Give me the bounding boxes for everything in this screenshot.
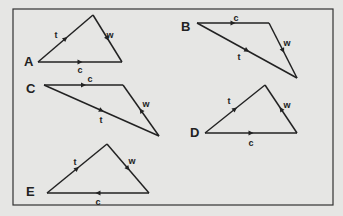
side-label-t: t: [100, 115, 103, 125]
side-label-w: w: [141, 99, 150, 109]
triangle-label: B: [181, 19, 190, 34]
arrowhead-icon: [78, 60, 83, 65]
triangle-label: E: [26, 184, 35, 199]
triangle-label: D: [190, 125, 199, 140]
arrowhead-icon: [96, 191, 101, 196]
triangle-label: C: [26, 81, 36, 96]
triangle-c: cwtC: [26, 74, 159, 136]
triangle-a: twcA: [24, 15, 122, 75]
triangle-d: twcD: [190, 85, 297, 148]
side-label-w: w: [282, 100, 291, 110]
side-label-t: t: [55, 30, 58, 40]
triangle-label: A: [24, 54, 34, 69]
side-label-c: c: [77, 65, 82, 75]
triangle-e: twcE: [26, 144, 149, 207]
side-label-t: t: [74, 157, 77, 167]
side-label-c: c: [95, 197, 100, 207]
side-label-w: w: [105, 30, 114, 40]
triangle-b: cwtB: [181, 13, 297, 78]
side-label-w: w: [127, 156, 136, 166]
side-label-t: t: [238, 52, 241, 62]
arrowhead-icon: [81, 83, 86, 88]
side-label-t: t: [228, 96, 231, 106]
side-label-c: c: [87, 74, 92, 84]
vector-triangle-diagram: twcA cwtB cwtC twcD twcE: [0, 0, 343, 216]
arrowhead-icon: [249, 131, 254, 136]
side-label-c: c: [233, 13, 238, 23]
side-label-w: w: [282, 38, 291, 48]
side-label-c: c: [248, 138, 253, 148]
